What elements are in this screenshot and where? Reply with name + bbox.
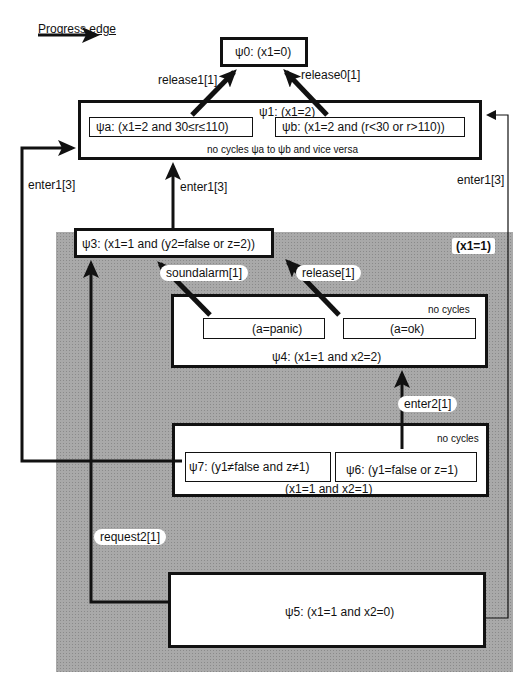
node-psi6[interactable]: ψ6: (y1=false or z=1) — [335, 452, 477, 482]
node-psi0-label: ψ0: (x1=0) — [235, 45, 291, 59]
edge-label-release0: release0[1] — [301, 68, 360, 82]
edge-label-release: release[1] — [296, 265, 361, 281]
node-psia-label: ψa: (x1=2 and 30≤r≤110) — [96, 120, 229, 134]
node-psi67-label: (x1=1 and x2=1) — [285, 482, 372, 496]
node-psi67-note: no cycles — [437, 432, 479, 446]
node-psi6-label: ψ6: (y1=false or z=1) — [346, 463, 458, 477]
node-psia[interactable]: ψa: (x1=2 and 30≤r≤110) — [89, 117, 253, 137]
edge-label-request2: request2[1] — [94, 529, 166, 545]
node-psi4[interactable]: no cycles (a=panic) (a=ok) ψ4: (x1=1 and… — [171, 294, 488, 368]
node-psi67[interactable]: no cycles ψ7: (y1≠false and z≠1) ψ6: (y1… — [172, 423, 489, 497]
node-psi1-note: no cycles ψa to ψb and vice versa — [207, 143, 358, 157]
node-psib-label: ψb: (x1=2 and (r<30 or r>110)) — [282, 120, 445, 134]
region-label: (x1=1) — [452, 238, 495, 254]
node-ok-label: (a=ok) — [390, 322, 424, 336]
node-psi3-label: ψ3: (x1=1 and (y2=false or z=2)) — [82, 237, 255, 251]
node-psi5[interactable]: ψ5: (x1=1 and x2=0) — [168, 572, 486, 648]
node-panic[interactable]: (a=panic) — [203, 318, 325, 339]
edge-label-enter2: enter2[1] — [398, 396, 457, 412]
edge-label-enter1-left: enter1[3] — [28, 178, 75, 192]
node-psi4-note: no cycles — [428, 303, 470, 317]
node-psi5-label: ψ5: (x1=1 and x2=0) — [285, 605, 394, 619]
node-psi7[interactable]: ψ7: (y1≠false and z≠1) — [185, 452, 331, 482]
node-psi7-label: ψ7: (y1≠false and z≠1) — [189, 460, 309, 474]
edge-label-enter1-mid: enter1[3] — [180, 180, 227, 194]
node-panic-label: (a=panic) — [252, 322, 302, 336]
node-psi1[interactable]: ψ1: (x1=2) ψa: (x1=2 and 30≤r≤110) ψb: (… — [78, 100, 482, 160]
node-psi4-label: ψ4: (x1=1 and x2=2) — [272, 350, 381, 364]
edge-label-release1: release1[1] — [158, 73, 217, 87]
node-psi0[interactable]: ψ0: (x1=0) — [220, 37, 308, 67]
node-psib[interactable]: ψb: (x1=2 and (r<30 or r>110)) — [275, 117, 465, 137]
node-ok[interactable]: (a=ok) — [343, 318, 476, 339]
edge-label-enter1-right: enter1[3] — [457, 173, 504, 187]
edge-label-soundalarm: soundalarm[1] — [160, 265, 248, 281]
node-psi3[interactable]: ψ3: (x1=1 and (y2=false or z=2)) — [74, 228, 274, 258]
legend-label: Progress edge — [38, 22, 116, 36]
